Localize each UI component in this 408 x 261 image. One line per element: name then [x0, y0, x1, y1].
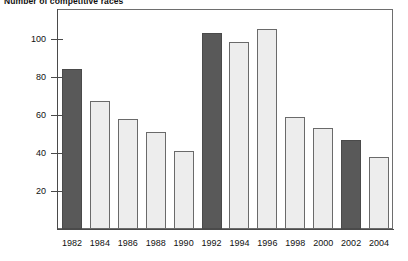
- x-tick-label: 1982: [62, 238, 82, 248]
- x-tick-label: 2004: [369, 238, 389, 248]
- bar-1990[interactable]: [174, 151, 194, 229]
- bar-2000[interactable]: [313, 128, 333, 229]
- x-tick-label: 1994: [229, 238, 249, 248]
- x-axis-line: [57, 229, 394, 230]
- bar-series: [58, 10, 393, 229]
- y-tick-label: 100: [31, 34, 46, 44]
- bar-slot: [90, 10, 110, 229]
- bar-slot: [341, 10, 361, 229]
- bar-1986[interactable]: [118, 119, 138, 229]
- x-tick-label: 1996: [257, 238, 277, 248]
- bar-slot: [62, 10, 82, 229]
- bar-1994[interactable]: [229, 42, 249, 229]
- bar-1996[interactable]: [257, 29, 277, 229]
- bar-slot: [229, 10, 249, 229]
- y-tick-label: 80: [36, 72, 46, 82]
- y-tick-label: 60: [36, 110, 46, 120]
- bar-slot: [285, 10, 305, 229]
- x-tick-label: 1986: [118, 238, 138, 248]
- x-tick-label: 2002: [341, 238, 361, 248]
- bar-1998[interactable]: [285, 117, 305, 229]
- bar-1988[interactable]: [146, 132, 166, 229]
- y-tick-label: 40: [36, 148, 46, 158]
- x-tick-label: 2000: [313, 238, 333, 248]
- bar-1982[interactable]: [62, 69, 82, 229]
- x-tick-label: 1990: [174, 238, 194, 248]
- bar-slot: [369, 10, 389, 229]
- chart-root: Number of competitive races 20406080100 …: [0, 0, 408, 261]
- bar-slot: [174, 10, 194, 229]
- x-tick-label: 1988: [146, 238, 166, 248]
- bar-slot: [202, 10, 222, 229]
- chart-title: Number of competitive races: [4, 0, 123, 6]
- bar-1992[interactable]: [202, 33, 222, 229]
- x-tick-label: 1998: [285, 238, 305, 248]
- bar-2004[interactable]: [369, 157, 389, 229]
- bar-2002[interactable]: [341, 140, 361, 230]
- bar-1984[interactable]: [90, 101, 110, 229]
- bar-slot: [118, 10, 138, 229]
- bar-slot: [257, 10, 277, 229]
- x-tick-label: 1992: [202, 238, 222, 248]
- x-tick-label: 1984: [90, 238, 110, 248]
- bar-slot: [313, 10, 333, 229]
- y-tick-label: 20: [36, 186, 46, 196]
- bar-slot: [146, 10, 166, 229]
